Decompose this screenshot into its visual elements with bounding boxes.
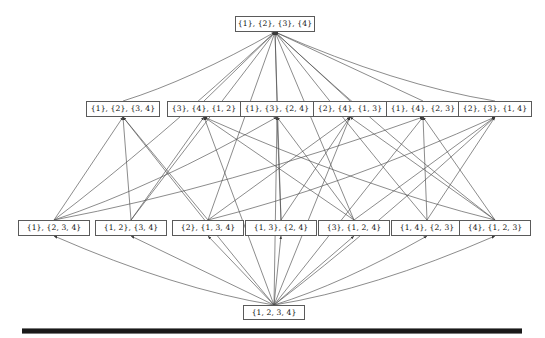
partition-node[interactable]: {2}, {4}, {1, 3} <box>313 101 387 117</box>
lattice-edge <box>123 117 274 305</box>
lattice-edge <box>204 117 274 305</box>
lattice-edge <box>274 236 354 305</box>
lattice-edge <box>275 32 423 101</box>
partition-node[interactable]: {1, 2, 3, 4} <box>243 305 305 320</box>
partition-node[interactable]: {1}, {3}, {2, 4} <box>240 101 314 117</box>
lattice-edge <box>54 32 275 220</box>
partition-node[interactable]: {2}, {1, 3, 4} <box>172 220 244 236</box>
lattice-edge <box>275 32 427 220</box>
lattice-edge <box>423 117 427 220</box>
lattice-edge <box>274 117 350 305</box>
lattice-edge <box>354 117 495 220</box>
partition-node[interactable]: {2}, {3}, {1, 4} <box>458 101 532 117</box>
lattice-edge <box>204 32 275 101</box>
edge-group <box>54 32 495 305</box>
lattice-edge <box>131 236 274 305</box>
partition-node[interactable]: {1}, {4}, {2, 3} <box>386 101 460 117</box>
lattice-edge <box>208 32 275 220</box>
lattice-edge <box>123 117 208 220</box>
lattice-edge <box>274 236 427 305</box>
lattice-edge <box>54 117 423 220</box>
lattice-edge <box>275 32 495 220</box>
partition-node[interactable]: {1, 4}, {2, 3} <box>391 220 463 236</box>
partition-node[interactable]: {4}, {1, 2, 3} <box>459 220 531 236</box>
lattice-edge <box>54 117 123 220</box>
edge-layer <box>0 0 545 338</box>
partition-lattice-diagram: {1}, {2}, {3}, {4}{1}, {2}, {3, 4}{3}, {… <box>0 0 545 338</box>
lattice-edge <box>274 117 423 305</box>
horizontal-rule <box>22 328 522 334</box>
partition-node[interactable]: {1, 3}, {2, 4} <box>245 220 317 236</box>
partition-node[interactable]: {3}, {1, 2, 4} <box>318 220 390 236</box>
lattice-edge <box>274 236 495 305</box>
lattice-edge <box>208 236 274 305</box>
lattice-edge <box>131 117 204 220</box>
lattice-edge <box>275 32 495 101</box>
lattice-edge <box>423 117 495 220</box>
lattice-edge <box>277 117 354 220</box>
partition-node[interactable]: {3}, {4}, {1, 2} <box>167 101 241 117</box>
partition-node[interactable]: {1}, {2}, {3}, {4} <box>235 16 315 32</box>
lattice-edge <box>123 32 275 101</box>
lattice-edge <box>131 32 275 220</box>
partition-node[interactable]: {1}, {2}, {3, 4} <box>86 101 160 117</box>
partition-node[interactable]: {1, 2}, {3, 4} <box>95 220 167 236</box>
partition-node[interactable]: {1}, {2, 3, 4} <box>18 220 90 236</box>
lattice-edge <box>204 117 495 220</box>
lattice-edge <box>208 117 495 220</box>
lattice-edge <box>275 32 354 220</box>
